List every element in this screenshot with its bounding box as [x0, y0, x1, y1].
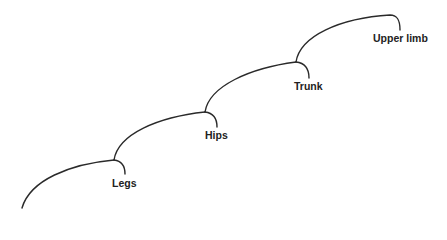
branch-legs-tip [114, 160, 125, 174]
branch-legs-to-hips [114, 112, 205, 160]
node-label-legs: Legs [112, 178, 137, 189]
branch-root-to-legs [22, 160, 114, 208]
node-label-upper-limb: Upper limb [373, 33, 428, 44]
branch-hips-to-trunk [205, 62, 296, 112]
node-label-trunk: Trunk [294, 81, 323, 92]
branch-hips-tip [205, 112, 217, 127]
node-label-hips: Hips [205, 130, 228, 141]
branch-trunk-tip [296, 62, 309, 78]
